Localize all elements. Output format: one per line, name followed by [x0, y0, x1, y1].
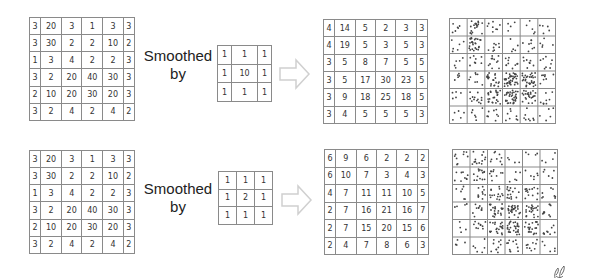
grid-cell: 2 [41, 103, 62, 120]
grid-cell: 5 [375, 106, 395, 123]
input-grid-1: 3203133330221021342233220403032102030203… [29, 17, 135, 121]
grid-cell: 3 [324, 106, 335, 123]
grid-cell: 3 [30, 103, 41, 120]
grid-row: 33022102 [30, 168, 135, 185]
grid-row: 271621167 [325, 202, 429, 220]
grid-cell: 8 [355, 54, 375, 71]
grid-cell: 4 [61, 52, 82, 69]
smoothed-by-label-1: Smoothed by [143, 47, 213, 83]
grid-cell: 5 [396, 37, 416, 54]
grid-cell: 1 [255, 189, 273, 207]
grid-cell: 7 [356, 237, 376, 255]
grid-cell: 2 [103, 185, 124, 202]
grid-cell: 30 [82, 86, 103, 103]
grid-cell: 3 [103, 151, 124, 168]
grid-cell: 3 [123, 86, 134, 103]
grid-row: 134223 [30, 185, 135, 202]
grid-cell: 3 [416, 37, 427, 54]
grid-cell: 20 [41, 18, 62, 35]
grid-row: 271520156 [325, 220, 429, 238]
dot-density-grid-2 [452, 149, 558, 255]
grid-cell: 3 [30, 18, 41, 35]
grid-cell: 1 [219, 207, 237, 225]
grid-cell: 3 [41, 52, 62, 69]
grid-cell: 1 [30, 185, 41, 202]
grid-cell: 5 [417, 185, 428, 203]
arrow-right-icon [279, 58, 311, 90]
grid-cell: 6 [356, 150, 376, 168]
grid-cell: 2 [375, 20, 395, 37]
grid-cell: 3 [416, 106, 427, 123]
grid-cell: 6 [397, 237, 417, 255]
grid-cell: 5 [416, 71, 427, 88]
grid-cell: 2 [123, 236, 134, 253]
grid-cell: 3 [396, 20, 416, 37]
grid-cell: 21 [376, 202, 396, 220]
grid-cell: 15 [397, 220, 417, 238]
signature-icon [552, 264, 568, 280]
grid-cell: 2 [30, 86, 41, 103]
grid-cell: 3 [324, 89, 335, 106]
grid-row: 324242 [30, 236, 135, 253]
grid-cell: 5 [335, 54, 355, 71]
grid-cell: 3 [30, 35, 41, 52]
grid-cell: 5 [416, 54, 427, 71]
label-line1: Smoothed [143, 180, 213, 198]
grid-cell: 4 [397, 167, 417, 185]
grid-row: 2102030203 [30, 86, 135, 103]
grid-cell: 3 [103, 18, 124, 35]
grid-cell: 3 [123, 219, 134, 236]
grid-cell: 7 [375, 54, 395, 71]
grid-cell: 11 [376, 185, 396, 203]
grid-cell: 1 [82, 18, 103, 35]
grid-cell: 4 [324, 20, 335, 37]
grid-cell: 1 [218, 64, 232, 83]
grid-cell: 2 [61, 35, 82, 52]
grid-row: 6107343 [325, 167, 429, 185]
kernel-grid-1: 1111101111 [217, 45, 272, 102]
grid-cell: 4 [325, 185, 336, 203]
grid-cell: 20 [61, 202, 82, 219]
grid-cell: 6 [325, 150, 336, 168]
grid-cell: 1 [237, 207, 255, 225]
grid-cell: 20 [61, 69, 82, 86]
grid-cell: 40 [82, 69, 103, 86]
grid-cell: 7 [336, 202, 356, 220]
grid-row: 322040303 [30, 69, 135, 86]
grid-cell: 6 [325, 167, 336, 185]
grid-cell: 5 [396, 54, 416, 71]
grid-cell: 5 [355, 20, 375, 37]
grid-row: 358755 [324, 54, 428, 71]
grid-cell: 20 [103, 219, 124, 236]
grid-cell: 19 [335, 37, 355, 54]
grid-cell: 3 [61, 18, 82, 35]
grid-cell: 18 [396, 89, 416, 106]
grid-cell: 4 [61, 185, 82, 202]
grid-row: 111 [219, 207, 273, 225]
grid-cell: 1 [237, 172, 255, 190]
grid-cell: 5 [355, 37, 375, 54]
grid-cell: 3 [417, 167, 428, 185]
grid-row: 471111105 [325, 185, 429, 203]
grid-cell: 1 [257, 46, 271, 65]
grid-cell: 9 [335, 89, 355, 106]
grid-cell: 2 [41, 69, 62, 86]
grid-cell: 9 [336, 150, 356, 168]
grid-cell: 4 [61, 103, 82, 120]
grid-cell: 5 [416, 89, 427, 106]
label-line1: Smoothed [143, 47, 213, 65]
grid-cell: 3 [30, 69, 41, 86]
grid-cell: 1 [219, 189, 237, 207]
grid-cell: 8 [376, 237, 396, 255]
grid-cell: 2 [325, 220, 336, 238]
grid-cell: 1 [257, 64, 271, 83]
grid-cell: 2 [376, 150, 396, 168]
grid-cell: 2 [123, 168, 134, 185]
grid-cell: 2 [123, 103, 134, 120]
grid-cell: 3 [30, 151, 41, 168]
grid-row: 111 [219, 172, 273, 190]
grid-row: 134223 [30, 52, 135, 69]
grid-cell: 30 [41, 35, 62, 52]
label-line2: by [143, 65, 213, 83]
grid-cell: 3 [123, 52, 134, 69]
